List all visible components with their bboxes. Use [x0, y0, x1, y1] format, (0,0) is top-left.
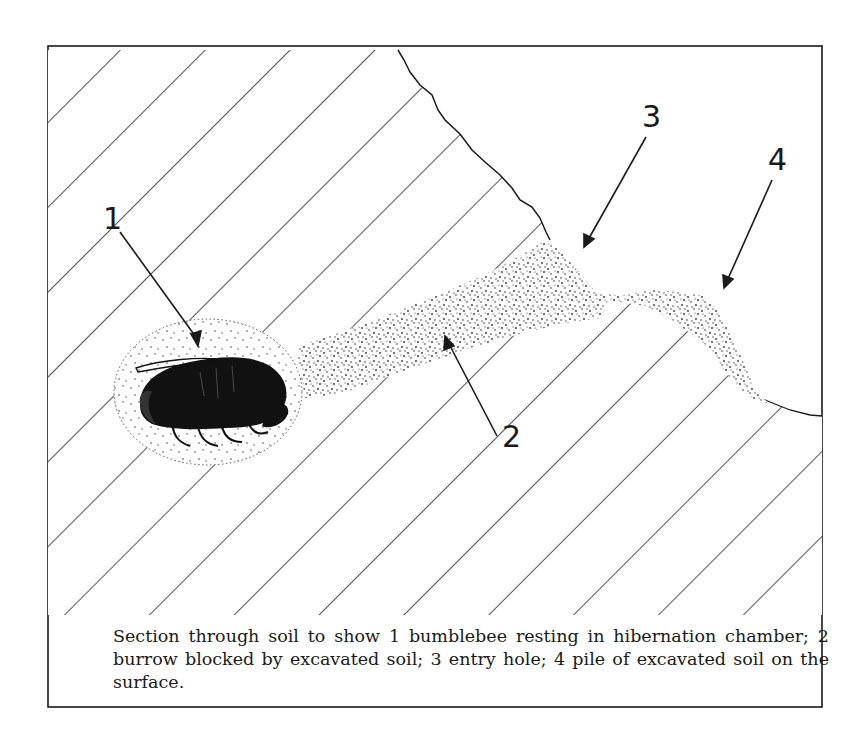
- label-1: 1: [103, 201, 122, 236]
- label-3: 3: [642, 99, 661, 134]
- label-2: 2: [502, 419, 521, 454]
- label-4: 4: [768, 142, 787, 177]
- figure-caption: Section through soil to show 1 bumblebee…: [113, 625, 829, 694]
